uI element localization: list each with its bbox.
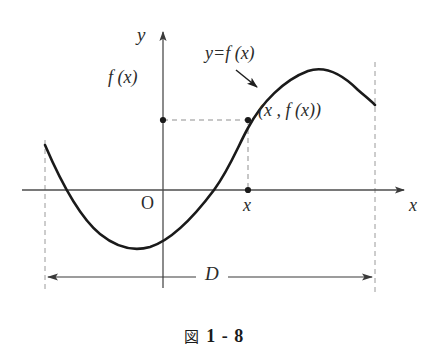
x-tick-label: x <box>243 196 251 214</box>
function-curve <box>45 69 375 249</box>
origin-label: O <box>141 194 154 212</box>
curve-label-pointer-arrow <box>236 70 257 87</box>
figure-caption-number: 1 - 8 <box>206 326 244 346</box>
y-value-marker-dot <box>160 117 166 123</box>
figure-container: y x O f (x) y=f (x) (x , f (x)) x D 図 1 … <box>0 0 428 364</box>
y-axis-label: y <box>137 25 145 44</box>
figure-caption-mark: 図 <box>184 328 200 346</box>
function-value-label: f (x) <box>108 68 137 86</box>
x-tick-marker-dot <box>245 187 251 193</box>
domain-label: D <box>198 264 226 283</box>
curve-point-marker-dot <box>245 117 251 123</box>
point-coordinates-label: (x , f (x)) <box>258 101 321 119</box>
figure-caption: 図 1 - 8 <box>0 325 428 347</box>
x-axis-label: x <box>409 196 417 214</box>
curve-equation-label: y=f (x) <box>205 44 255 62</box>
